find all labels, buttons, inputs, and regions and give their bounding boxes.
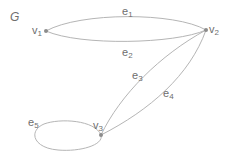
label-e2: e2 (122, 47, 133, 60)
label-e5: e5 (28, 117, 39, 130)
label-v1: v1 (32, 25, 42, 38)
edge-e2 (46, 30, 206, 41)
vertex-v3 (99, 133, 103, 137)
label-e3: e3 (132, 70, 143, 83)
label-e4: e4 (163, 88, 174, 101)
label-v3: v3 (93, 120, 103, 133)
vertex-v1 (44, 29, 48, 33)
edge-e5-loop (35, 121, 101, 150)
edge-e3 (101, 30, 206, 135)
label-e1: e1 (122, 6, 133, 19)
label-v2: v2 (209, 24, 219, 37)
edge-e4 (101, 30, 206, 135)
graph-name: G (10, 11, 19, 23)
vertex-v2 (204, 28, 208, 32)
